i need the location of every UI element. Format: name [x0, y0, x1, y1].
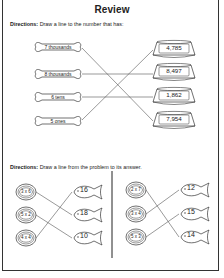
- match-lines-1: [82, 48, 153, 121]
- problem-label-r1: 2 x 7: [128, 187, 144, 192]
- answer-label-r2: 15: [184, 208, 198, 215]
- answer-label-l1: 16: [77, 186, 91, 193]
- bone-label-1: 7 thousands: [38, 44, 78, 50]
- problem-label-l2: 5 x 2: [18, 212, 34, 217]
- problem-label-l3: 4 x 4: [18, 235, 34, 240]
- bowl-label-3: 1,862: [159, 91, 189, 98]
- bone-label-2: 8 thousands: [38, 71, 78, 77]
- bowl-label-4: 7,954: [159, 115, 189, 122]
- answer-label-l2: 18: [77, 209, 91, 216]
- answer-label-r3: 14: [184, 231, 198, 238]
- problem-label-r3: 5 x 3: [128, 234, 144, 239]
- bowl-label-2: 8,497: [159, 67, 189, 74]
- problem-label-r2: 3 x 4: [128, 211, 144, 216]
- problem-label-l1: 3 x 6: [18, 189, 34, 194]
- bone-label-4: 5 ones: [38, 118, 78, 124]
- bowl-label-1: 4,785: [159, 44, 189, 51]
- answer-label-r1: 12: [184, 184, 198, 191]
- match-lines-2: [36, 190, 179, 238]
- bone-label-3: 6 tens: [38, 94, 78, 100]
- answer-label-l3: 10: [77, 232, 91, 239]
